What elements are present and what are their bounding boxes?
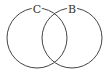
set-c-circle: [7, 8, 67, 68]
set-c-label: C: [32, 4, 42, 15]
venn-diagram: [0, 0, 106, 73]
set-b-circle: [42, 8, 102, 68]
set-b-label: B: [67, 4, 77, 15]
